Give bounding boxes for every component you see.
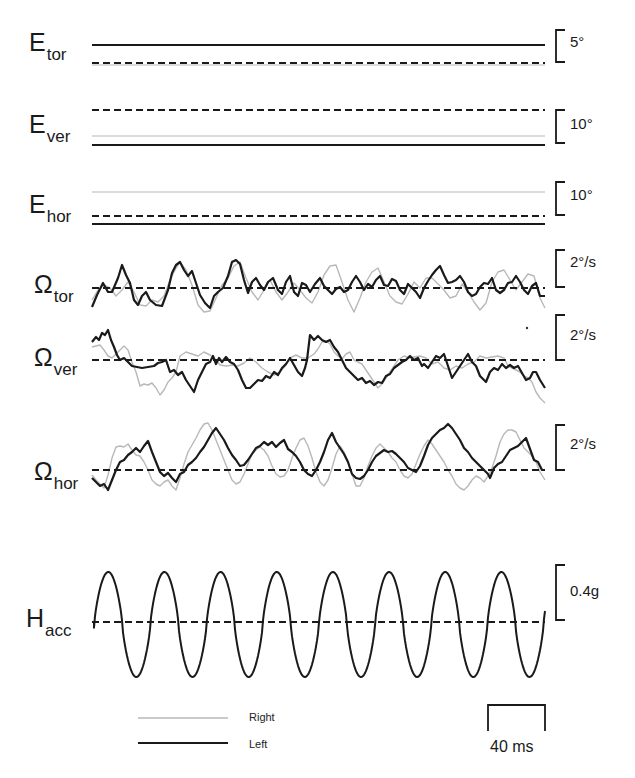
label-omega-ver-sub: ver: [54, 360, 78, 379]
label-e-tor-sub: tor: [47, 45, 67, 64]
time-scale-label: 40 ms: [490, 738, 534, 756]
trace-layer: [92, 45, 545, 677]
label-e-hor: Ehor: [29, 190, 71, 219]
label-omega-ver-main: Ω: [34, 343, 53, 371]
h-acc-trace: [94, 572, 545, 677]
scale-bar-omega-hor: [556, 425, 565, 470]
label-omega-tor-sub: tor: [54, 287, 74, 306]
label-h-acc: Hacc: [26, 604, 72, 633]
label-omega-tor: Ωtor: [34, 270, 74, 299]
label-h-acc-main: H: [26, 604, 44, 632]
label-e-ver: Ever: [29, 110, 70, 139]
legend-lines: [138, 718, 228, 743]
scale-label-e-ver: 10°: [570, 115, 593, 132]
figure-canvas: [0, 0, 635, 778]
scale-bar-omega-ver: [556, 315, 565, 360]
label-e-tor-main: E: [29, 28, 46, 56]
scale-label-e-tor: 5°: [570, 33, 584, 50]
scale-bar-omega-tor: [556, 250, 565, 287]
label-e-hor-sub: hor: [47, 207, 72, 226]
label-omega-hor: Ωhor: [34, 457, 78, 486]
scale-label-h-acc: 0.4g: [570, 582, 599, 599]
label-e-hor-main: E: [29, 190, 46, 218]
stray-dot-mark: [526, 327, 528, 329]
scale-bar-e-tor: [556, 30, 565, 62]
scale-label-omega-ver: 2°/s: [570, 326, 596, 343]
time-scale-bar: [488, 705, 545, 731]
scale-bar-e-ver: [556, 110, 565, 143]
scale-bar-e-hor: [556, 182, 565, 215]
label-e-tor: Etor: [29, 28, 67, 57]
label-e-ver-main: E: [29, 110, 46, 138]
omega-ver-right-trace: [92, 341, 545, 403]
scale-label-e-hor: 10°: [570, 186, 593, 203]
label-omega-tor-main: Ω: [34, 270, 53, 298]
label-h-acc-sub: acc: [45, 621, 71, 640]
label-omega-ver: Ωver: [34, 343, 77, 372]
legend-label-right: Right: [249, 711, 275, 723]
label-omega-hor-sub: hor: [54, 474, 79, 493]
scale-bar-h-acc: [556, 565, 565, 620]
omega-hor-right-trace: [92, 423, 545, 490]
legend-label-left: Left: [249, 738, 267, 750]
label-e-ver-sub: ver: [47, 127, 71, 146]
scale-label-omega-tor: 2°/s: [570, 253, 596, 270]
scale-label-omega-hor: 2°/s: [570, 435, 596, 452]
label-omega-hor-main: Ω: [34, 457, 53, 485]
